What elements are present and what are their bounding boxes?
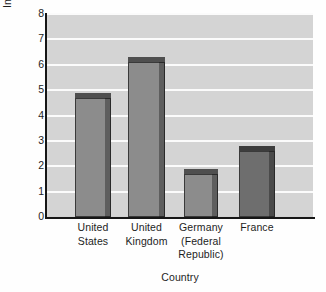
y-axis-tick-label: 5 [28, 83, 44, 96]
y-axis-title: Investment Growth Rate (%) [0, 0, 14, 42]
bar-side-face [269, 151, 275, 217]
bar [75, 93, 111, 217]
y-axis-tick-label: 4 [28, 109, 44, 122]
bar-front-face [239, 151, 269, 217]
bar-side-face [159, 62, 165, 217]
bar-chart: Investment Growth Rate (%) 012345678 Cou… [0, 0, 326, 292]
y-axis-tick-label: 3 [28, 134, 44, 147]
y-axis-tick-label: 8 [28, 7, 44, 20]
bar-front-face [184, 174, 212, 217]
x-axis-label-line: (Federal [161, 235, 241, 249]
x-axis-line [45, 217, 315, 219]
gridline [47, 38, 313, 40]
y-axis-tick-label: 7 [28, 32, 44, 45]
bar [239, 146, 275, 217]
bar-top-face [75, 93, 111, 98]
plot-area [47, 14, 313, 217]
bar-top-face [239, 146, 275, 151]
gridline [47, 64, 313, 66]
bar-side-face [105, 98, 111, 217]
x-axis-label-line: France [217, 221, 297, 235]
y-axis-tick-label: 1 [28, 185, 44, 198]
x-axis-category-label: France [217, 221, 297, 235]
y-axis-tick-label: 2 [28, 159, 44, 172]
bar [128, 57, 165, 217]
y-axis-tick-label: 6 [28, 58, 44, 71]
bar-side-face [212, 174, 218, 217]
x-axis-label-line: Republic) [161, 248, 241, 262]
bar-top-face [184, 169, 218, 174]
bar-front-face [75, 98, 105, 217]
gridline [47, 13, 313, 15]
y-axis-tick-label: 0 [28, 210, 44, 223]
y-axis-tick-labels: 012345678 [28, 0, 44, 292]
bar-top-face [128, 57, 165, 62]
bar-front-face [128, 62, 159, 217]
y-axis-line [45, 13, 47, 219]
x-axis-title: Country [47, 271, 313, 283]
gridline [47, 89, 313, 91]
bar [184, 169, 218, 217]
